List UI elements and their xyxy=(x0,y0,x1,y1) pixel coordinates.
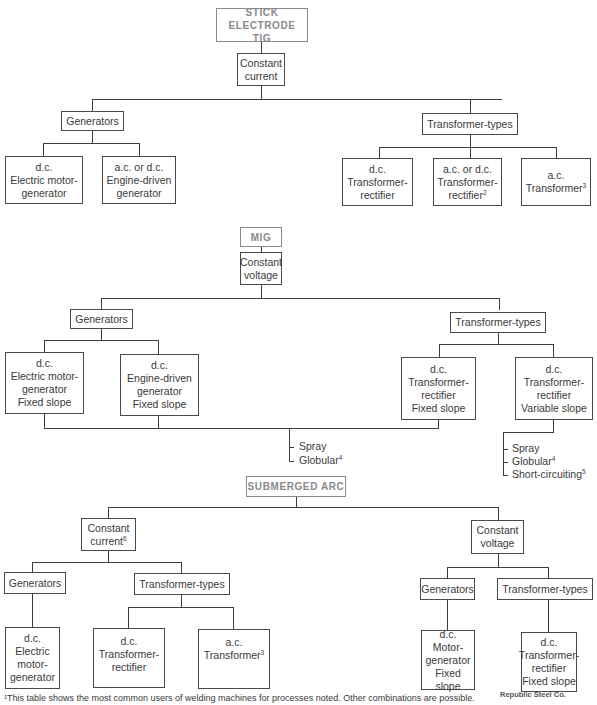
process-mig: MIG xyxy=(240,227,282,247)
ac-transformer: a.c. Transformer3 xyxy=(521,158,591,206)
connector xyxy=(44,340,45,352)
node-text: Transformer-types xyxy=(139,578,224,591)
node-text: Transformer- xyxy=(408,376,468,389)
connector xyxy=(556,147,557,158)
connector xyxy=(158,340,159,354)
footnote-1: ¹This table shows the most common users … xyxy=(4,693,475,703)
connector xyxy=(447,567,549,568)
generators-node: Generators xyxy=(61,111,124,131)
node-text: Transformer3 xyxy=(204,649,264,662)
connector xyxy=(108,551,109,562)
connector xyxy=(498,508,499,520)
connector xyxy=(470,135,471,147)
connector xyxy=(503,449,508,450)
node-text: rectifier xyxy=(360,189,394,202)
connector xyxy=(289,428,290,461)
node-text: motor- xyxy=(17,658,47,671)
connector xyxy=(498,333,499,344)
dc-electric-motor-generator: d.c. Electric motor- generator xyxy=(5,627,60,689)
connector xyxy=(44,414,45,428)
connector xyxy=(548,567,549,578)
node-text: a.c. or d.c. xyxy=(443,163,492,176)
connector xyxy=(101,298,500,299)
node-text: generator xyxy=(22,383,67,396)
node-text: a.c. or d.c. xyxy=(114,161,163,174)
dc-transformer-rectifier-fixed: d.c. Transformer- rectifier Fixed slope xyxy=(521,632,577,692)
node-text: rectifier xyxy=(421,389,455,402)
transformer-types-node: Transformer-types xyxy=(422,113,518,135)
node-text: Transformer- xyxy=(99,648,159,661)
acdc-transformer-rectifier: a.c. or d.c. Transformer- rectifier2 xyxy=(433,158,502,206)
node-text: Fixed slope xyxy=(522,675,576,688)
connector xyxy=(498,554,499,567)
connector xyxy=(379,147,380,158)
dc-motor-generator-fixed: d.c. Motor- generator Fixed slope xyxy=(421,630,475,690)
node-text: Fixed slope xyxy=(422,667,474,693)
connector xyxy=(261,285,262,298)
connector xyxy=(439,344,554,345)
connector xyxy=(44,340,159,341)
node-text: rectifier2 xyxy=(448,189,486,202)
node-text: Constant xyxy=(240,256,282,269)
node-text: Generators xyxy=(75,313,128,326)
dc-transformer-rectifier-variable: d.c. Transformer- rectifier Variable slo… xyxy=(515,357,593,420)
connector xyxy=(447,600,448,630)
source-credit: Republic Steel Co. xyxy=(500,690,566,699)
ac-transformer: a.c. Transformer3 xyxy=(198,629,270,689)
footnote-mark: 4 xyxy=(339,454,343,461)
node-text: Transformer-types xyxy=(427,118,512,131)
connector xyxy=(548,600,549,632)
generators-node: Generators xyxy=(4,572,66,594)
connector xyxy=(92,131,93,143)
node-text: Fixed slope xyxy=(412,402,466,415)
process-label: MIG xyxy=(251,231,272,244)
connector xyxy=(470,147,471,158)
footnote-mark: 3 xyxy=(261,649,265,656)
node-text: rectifier xyxy=(532,662,566,675)
footnote-mark: 3 xyxy=(583,182,587,189)
node-text: Electric xyxy=(15,645,49,658)
connector xyxy=(128,607,129,628)
node-text: generator xyxy=(10,671,55,684)
node-text: generator xyxy=(137,385,182,398)
process-submerged-arc: SUBMERGED ARC xyxy=(246,476,346,497)
connector xyxy=(108,507,499,508)
node-text: Constant xyxy=(87,522,129,535)
transfer-mode-short-circuiting: Short-circuiting5 xyxy=(512,468,586,481)
generators-node: Generators xyxy=(420,578,475,600)
node-text: Generators xyxy=(421,583,474,596)
footnote-mark: 2 xyxy=(483,188,487,195)
node-text: rectifier xyxy=(537,389,571,402)
connector xyxy=(43,143,44,156)
connector xyxy=(181,562,182,573)
node-text: Transformer- xyxy=(347,176,407,189)
node-text: rectifier xyxy=(112,661,146,674)
connector xyxy=(92,99,502,100)
connector xyxy=(139,143,140,156)
output-constant-current: Constant current xyxy=(237,53,285,86)
process-label: TIG xyxy=(253,32,271,45)
connector xyxy=(43,143,140,144)
connector xyxy=(447,567,448,578)
connector xyxy=(233,607,234,629)
node-text: d.c. xyxy=(151,359,168,372)
connector xyxy=(92,99,93,111)
connector xyxy=(289,461,294,462)
dc-engine-driven-generator-fixed: d.c. Engine-driven generator Fixed slope xyxy=(120,354,199,416)
dc-transformer-rectifier: d.c. Transformer- rectifier xyxy=(93,628,165,688)
connector xyxy=(101,329,102,340)
node-text: Generators xyxy=(66,115,119,128)
connector xyxy=(108,507,109,518)
transformer-types-node: Transformer-types xyxy=(450,312,546,333)
node-text: Engine-driven xyxy=(107,174,172,187)
node-text: d.c. xyxy=(36,161,53,174)
node-text: voltage xyxy=(481,537,515,550)
process-stick-tig: STICK ELECTRODE TIG xyxy=(216,8,308,42)
node-text: Transformer- xyxy=(437,176,497,189)
node-text: Generators xyxy=(9,577,62,590)
connector xyxy=(44,428,439,429)
connector xyxy=(499,298,500,310)
node-text: Engine-driven xyxy=(127,372,192,385)
node-text: current xyxy=(245,70,278,83)
node-text: d.c. xyxy=(541,636,558,649)
